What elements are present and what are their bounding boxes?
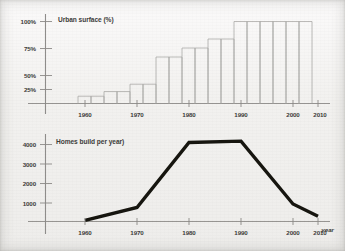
x-tick-label: 2000 — [286, 111, 300, 118]
x-tick-label: 1970 — [130, 111, 144, 118]
y-tick-label: 75% — [24, 45, 37, 52]
homes-built-svg: 4000 3000 2000 1000 Homes build per year… — [0, 122, 345, 251]
bar — [182, 48, 195, 104]
bar — [260, 22, 273, 104]
y-tick-label: 3000 — [23, 161, 37, 168]
x-tick-label: 1970 — [130, 229, 144, 236]
bar — [117, 92, 130, 104]
bar — [234, 22, 247, 104]
bar — [156, 57, 169, 104]
bar-series — [78, 22, 312, 104]
y-tick-label: 4000 — [23, 141, 37, 148]
homes-built-chart: 4000 3000 2000 1000 Homes build per year… — [0, 122, 345, 251]
x-tick-label: 2000 — [286, 229, 300, 236]
x-tick-label: 1960 — [78, 111, 92, 118]
y-tick-label: 50% — [24, 72, 37, 79]
bar — [78, 96, 91, 103]
bar — [247, 22, 260, 104]
y-tick-label: 2000 — [23, 180, 37, 187]
bar — [195, 48, 208, 104]
bar — [169, 57, 182, 104]
x-tick-label: 2010 — [313, 111, 327, 118]
y-tick-label: 25% — [24, 86, 37, 93]
urban-surface-svg: 100% 75% 50% 25% Urban surface (%) — [0, 0, 345, 125]
bar — [299, 22, 312, 104]
x-tick-label: 1990 — [234, 111, 248, 118]
x-tick-label: 1990 — [234, 229, 248, 236]
chart-title: Urban surface (%) — [58, 16, 114, 24]
bar — [104, 92, 117, 104]
bar — [208, 39, 221, 104]
x-tick-label: 1980 — [182, 111, 196, 118]
x-tick-label: 1980 — [182, 229, 196, 236]
y-tick-label: 100% — [21, 18, 37, 25]
bar — [286, 22, 299, 104]
urban-surface-chart: 100% 75% 50% 25% Urban surface (%) — [0, 0, 345, 125]
chart-title: Homes build per year) — [56, 138, 124, 146]
bar — [221, 39, 234, 104]
x-axis-title: year — [320, 226, 334, 233]
x-tick-label: 1960 — [78, 229, 92, 236]
data-line — [85, 141, 318, 220]
bar — [143, 84, 156, 103]
bar — [130, 84, 143, 103]
y-tick-label: 1000 — [23, 200, 37, 207]
bar — [273, 22, 286, 104]
bar — [91, 96, 104, 103]
